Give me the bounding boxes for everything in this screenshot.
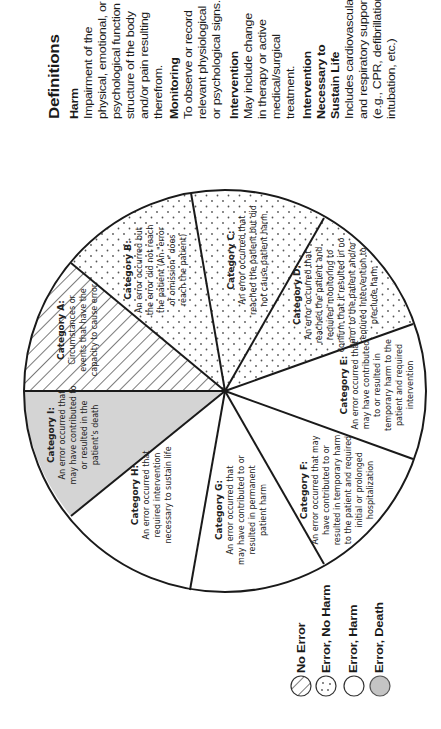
legend-label-error-harm: Error, Harm: [347, 605, 360, 673]
legend-label-no-error: No Error: [295, 623, 308, 673]
svg-text:An error occurred that: An error occurred that: [238, 216, 247, 305]
svg-text:An error occurred but: An error occurred but: [135, 227, 144, 313]
legend-swatch-error-death: [370, 676, 390, 696]
legend-label-error-no-harm: Error, No Harm: [320, 585, 333, 673]
svg-text:Category F:: Category F:: [299, 461, 309, 519]
legend-swatch-error-no-harm: [316, 676, 336, 696]
svg-text:patient harm: patient harm: [259, 484, 268, 536]
svg-text:to or resulted in: to or resulted in: [373, 353, 382, 417]
svg-text:patient and required: patient and required: [395, 344, 404, 426]
pie-center: [223, 389, 228, 394]
svg-text:temporary harm to the: temporary harm to the: [384, 339, 393, 431]
svg-text:the error did not reach: the error did not reach: [146, 225, 155, 316]
svg-text:of omission" does: of omission" does: [168, 235, 177, 306]
svg-text:may have contributed to or: may have contributed to or: [237, 454, 246, 564]
svg-text:may have contributed: may have contributed: [362, 341, 371, 429]
svg-text:not cause patient harm: not cause patient harm: [260, 213, 269, 307]
svg-text:confirm that it resulted in no: confirm that it resulted in no: [337, 238, 346, 353]
svg-text:An error occurred that: An error occurred that: [142, 451, 151, 540]
svg-text:Category D:: Category D:: [292, 265, 302, 325]
svg-text:An error occurred that: An error occurred that: [58, 391, 67, 480]
svg-text:An error occurred that may: An error occurred that may: [311, 435, 320, 544]
svg-text:initial or prolonged: initial or prolonged: [355, 452, 364, 528]
svg-text:hospitalization: hospitalization: [366, 461, 375, 519]
svg-text:Category G:: Category G:: [214, 480, 224, 540]
svg-text:Category B:: Category B:: [123, 240, 133, 300]
svg-text:harm to the patient and/or: harm to the patient and/or: [348, 241, 357, 348]
svg-text:or resulted in the: or resulted in the: [80, 400, 89, 469]
svg-text:capacity to cause error: capacity to cause error: [90, 283, 99, 376]
svg-text:Category I:: Category I:: [46, 407, 56, 463]
svg-text:required intervention: required intervention: [153, 453, 162, 538]
svg-text:resulted in permanent: resulted in permanent: [248, 465, 257, 554]
svg-text:Category A:: Category A:: [56, 300, 66, 360]
svg-text:intervention: intervention: [406, 361, 415, 410]
svg-text:required monitoring to: required monitoring to: [326, 250, 335, 340]
svg-text:An error occurred that: An error occurred that: [226, 466, 235, 555]
svg-text:An error occurred that: An error occurred that: [351, 341, 360, 430]
svg-text:reach the patient): reach the patient): [179, 234, 188, 306]
svg-text:Category H:: Category H:: [130, 465, 140, 525]
svg-text:patient's death: patient's death: [91, 405, 100, 466]
legend-swatch-no-error: [291, 676, 311, 696]
svg-text:necessary to sustain life: necessary to sustain life: [164, 446, 173, 543]
svg-text:to the patient and required: to the patient and required: [344, 436, 353, 544]
legend: [291, 676, 390, 696]
svg-text:resulted in temporary harm: resulted in temporary harm: [333, 435, 342, 546]
svg-text:An error occurred that: An error occurred that: [304, 251, 313, 340]
svg-text:reached the patient and: reached the patient and: [315, 247, 324, 344]
svg-text:preclude harm: preclude harm: [370, 266, 379, 324]
legend-label-error-death: Error, Death: [373, 602, 386, 673]
svg-text:may have contributed to: may have contributed to: [69, 385, 78, 484]
svg-text:Category C:: Category C:: [226, 230, 236, 289]
svg-text:Category E:: Category E:: [339, 356, 349, 415]
legend-swatch-error-harm: [344, 676, 364, 696]
svg-text:the patient (An "error: the patient (An "error: [157, 226, 166, 313]
svg-text:required intervention to: required intervention to: [359, 247, 368, 342]
svg-text:Circumstances or: Circumstances or: [68, 294, 77, 364]
svg-text:events that have the: events that have the: [79, 288, 88, 372]
svg-text:reached the patient but did: reached the patient but did: [249, 205, 258, 315]
svg-text:have contributed to or: have contributed to or: [322, 444, 331, 534]
